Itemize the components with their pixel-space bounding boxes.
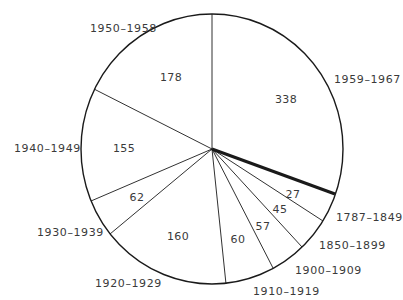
slice-value: 155 xyxy=(113,142,135,155)
slice-value: 160 xyxy=(167,230,189,243)
pie-chart: 3382745576016062155178 1959–19671787–184… xyxy=(0,0,403,300)
slice-label: 1910–1919 xyxy=(253,285,320,298)
slice-label: 1850–1899 xyxy=(319,239,386,252)
slice-value: 338 xyxy=(275,93,297,106)
slice-label: 1959–1967 xyxy=(334,73,401,86)
slice-value: 27 xyxy=(286,188,301,201)
slice-value: 45 xyxy=(273,203,288,216)
slice-label: 1950–1958 xyxy=(90,22,157,35)
slice-label: 1920–1929 xyxy=(95,277,162,290)
slice-label: 1900–1909 xyxy=(295,264,362,277)
slice-value: 57 xyxy=(256,220,271,233)
slice-value: 62 xyxy=(130,191,145,204)
slice-value: 178 xyxy=(160,71,182,84)
slice-label: 1930–1939 xyxy=(37,226,104,239)
slice-label: 1787–1849 xyxy=(336,211,403,224)
slice-value: 60 xyxy=(231,233,246,246)
slice-label: 1940–1949 xyxy=(14,142,81,155)
